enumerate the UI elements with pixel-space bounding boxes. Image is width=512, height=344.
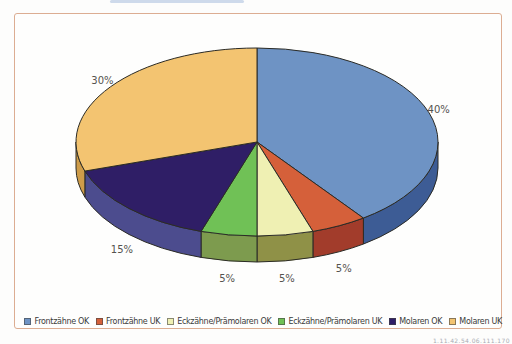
chart-legend: Frontzähne OK Frontzähne UK Eckzähne/Prä…: [17, 315, 502, 328]
scan-artifact-text: 1.11.42.54.06.111.170: [433, 337, 510, 344]
legend-item: Eckzähne/Prämolaren UK: [278, 317, 382, 326]
slice-percent-label: 30%: [91, 75, 113, 86]
legend-label: Eckzähne/Prämolaren OK: [177, 317, 271, 326]
legend-item: Molaren UK: [449, 317, 502, 326]
slice-percent-label: 5%: [219, 273, 235, 284]
legend-item: Frontzähne UK: [96, 317, 160, 326]
legend-swatch: [167, 318, 174, 325]
slice-percent-label: 5%: [336, 263, 352, 274]
legend-label: Frontzähne OK: [34, 317, 89, 326]
slice-percent-label: 5%: [279, 273, 295, 284]
legend-item: Molaren OK: [389, 317, 442, 326]
legend-item: Eckzähne/Prämolaren OK: [167, 317, 271, 326]
legend-label: Molaren OK: [399, 317, 442, 326]
scanned-page: 40%5%5%5%15%30% Frontzähne OK Frontzähne…: [0, 0, 512, 344]
legend-label: Molaren UK: [459, 317, 502, 326]
legend-swatch: [449, 318, 456, 325]
slice-percent-label: 40%: [428, 104, 450, 115]
legend-swatch: [389, 318, 396, 325]
legend-swatch: [24, 318, 31, 325]
legend-label: Frontzähne UK: [106, 317, 160, 326]
legend-item: Frontzähne OK: [24, 317, 89, 326]
slice-percent-label: 15%: [111, 244, 133, 255]
legend-swatch: [96, 318, 103, 325]
legend-swatch: [278, 318, 285, 325]
legend-label: Eckzähne/Prämolaren UK: [288, 317, 382, 326]
pie-chart-svg: 40%5%5%5%15%30%: [0, 0, 512, 344]
